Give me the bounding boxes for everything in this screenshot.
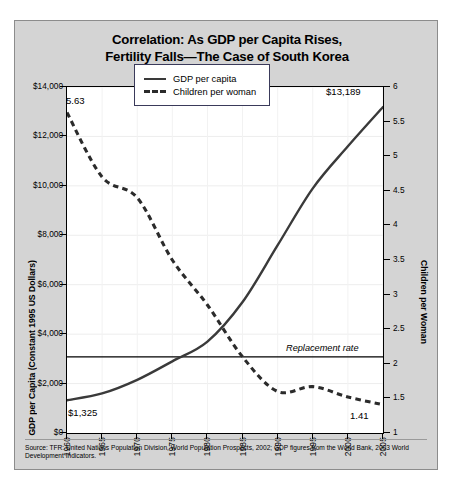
y-axis-right-tick — [384, 155, 390, 156]
annotation-tfr-end: 1.41 — [350, 410, 369, 421]
y-axis-right-tick-label: 5 — [393, 150, 398, 160]
legend-swatch-solid-icon — [144, 78, 166, 80]
y-axis-right-tick — [384, 328, 390, 329]
y-axis-right-tick — [384, 363, 390, 364]
chart-title: Correlation: As GDP per Capita Rises, Fe… — [15, 31, 439, 65]
y-axis-right-title: Children per Woman — [419, 260, 429, 344]
y-axis-right-tick — [384, 397, 390, 398]
legend-label-gdp: GDP per capita — [173, 74, 236, 84]
chart-legend: GDP per capita Children per woman — [134, 64, 270, 106]
y-axis-left-tick-label: $0 — [54, 427, 63, 437]
y-axis-right-tick-label: 3 — [393, 289, 398, 299]
chart-title-line2: Fertility Falls—The Case of South Korea — [15, 48, 439, 65]
y-axis-right-tick — [384, 294, 390, 295]
y-axis-left-tick-label: $6,000 — [38, 279, 63, 289]
y-axis-right-tick-label: 4 — [393, 219, 398, 229]
annotation-gdp-start: $1,325 — [68, 407, 97, 418]
y-axis-right-tick — [384, 86, 390, 87]
y-axis-right-tick — [384, 190, 390, 191]
y-axis-right-tick-label: 2 — [393, 358, 398, 368]
series-line-children-per-woman — [67, 113, 383, 405]
y-axis-left-tick-label: $4,000 — [38, 328, 63, 338]
y-axis-right-tick — [384, 432, 390, 433]
y-axis-left-tick-label: $10,000 — [33, 180, 63, 190]
y-axis-right-tick-label: 1.5 — [393, 392, 405, 402]
legend-label-children: Children per woman — [173, 87, 256, 97]
y-axis-right-tick — [384, 259, 390, 260]
y-axis-left-tick-label: $12,000 — [33, 130, 63, 140]
chart-figure: Correlation: As GDP per Capita Rises, Fe… — [14, 20, 438, 470]
chart-title-line1: Correlation: As GDP per Capita Rises, — [15, 31, 439, 48]
y-axis-right-tick — [384, 224, 390, 225]
annotation-tfr-start: 5.63 — [66, 95, 85, 106]
y-axis-left-title: GDP per Capita (Constant 1995 US Dollars… — [27, 260, 37, 436]
y-axis-right-tick-label: 5.5 — [393, 116, 405, 126]
plot-area — [66, 86, 384, 434]
series-line-gdp-per-capita — [67, 107, 383, 400]
legend-item-children: Children per woman — [144, 85, 260, 98]
y-axis-right-tick-label: 3.5 — [393, 254, 405, 264]
annotation-replacement-rate: Replacement rate — [286, 343, 359, 353]
y-axis-right-tick-label: 4.5 — [393, 185, 405, 195]
y-axis-left-tick-label: $14,000 — [33, 81, 63, 91]
y-axis-right-tick-label: 2.5 — [393, 323, 405, 333]
legend-swatch-dashed-icon — [144, 90, 166, 93]
y-axis-left-tick-label: $2,000 — [38, 378, 63, 388]
y-axis-right-tick — [384, 121, 390, 122]
plot-canvas — [67, 87, 383, 433]
y-axis-right-tick-label: 6 — [393, 81, 398, 91]
annotation-gdp-end: $13,189 — [326, 86, 361, 97]
y-axis-left-tick-label: $8,000 — [38, 229, 63, 239]
y-axis-right-tick-label: 1 — [393, 427, 398, 437]
source-note: Source: TFR: United Nations Population D… — [25, 439, 427, 461]
legend-item-gdp: GDP per capita — [144, 72, 260, 85]
